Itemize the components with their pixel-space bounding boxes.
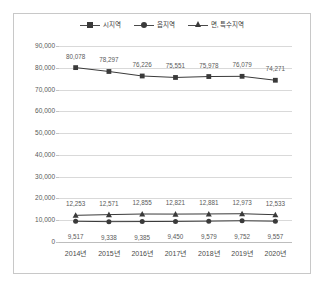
legend-item-si[interactable]: 시지역 — [80, 21, 121, 29]
series-layer — [59, 46, 292, 242]
y-axis-tick-label: 0 — [51, 239, 55, 246]
data-point-label: 76,079 — [232, 62, 251, 68]
y-axis-tick-label: 70,000 — [35, 86, 55, 93]
legend-label-eup: 읍지역 — [157, 22, 175, 29]
data-point-label: 12,855 — [133, 200, 152, 206]
data-point-marker — [273, 78, 278, 83]
y-axis-tick-label: 10,000 — [35, 217, 55, 224]
data-point-label: 12,571 — [99, 200, 118, 206]
data-point-label: 9,752 — [234, 234, 250, 240]
data-point-label: 80,078 — [66, 53, 85, 59]
data-point-marker — [240, 218, 245, 223]
x-axis-tick-label: 2020년 — [265, 250, 287, 257]
data-point-label: 9,557 — [267, 234, 283, 240]
data-point-marker — [73, 219, 78, 224]
data-point-label: 75,978 — [199, 62, 218, 68]
legend-marker-triangle-icon — [188, 21, 208, 29]
y-axis-tick-label: 40,000 — [35, 152, 55, 159]
x-axis-tick-label: 2018년 — [198, 250, 220, 257]
x-axis-tick-label: 2014년 — [65, 250, 87, 257]
legend-marker-square-icon — [80, 21, 100, 29]
data-point-label: 75,551 — [166, 63, 185, 69]
data-point-label: 12,533 — [266, 201, 285, 207]
data-point-label: 9,579 — [201, 234, 217, 240]
x-axis-tick-label: 2016년 — [131, 250, 153, 257]
data-point-label: 12,821 — [166, 200, 185, 206]
y-axis-tick-label: 30,000 — [35, 173, 55, 180]
x-axis-tick-label: 2015년 — [98, 250, 120, 257]
y-axis-tick-label: 90,000 — [35, 43, 55, 50]
y-axis-tick-mark — [56, 242, 59, 243]
x-axis-tick-label: 2019년 — [231, 250, 253, 257]
chart-frame: 시지역 읍지역 면, 특수지역 010,00020,00030,00040,00… — [13, 13, 311, 274]
legend-item-myeon[interactable]: 면, 특수지역 — [188, 21, 245, 29]
data-point-marker — [240, 74, 245, 79]
y-axis-tick-label: 50,000 — [35, 130, 55, 137]
data-point-label: 76,226 — [133, 62, 152, 68]
data-point-marker — [140, 219, 145, 224]
data-point-marker — [73, 65, 78, 70]
data-point-label: 74,271 — [266, 66, 285, 72]
y-axis-tick-label: 80,000 — [35, 65, 55, 72]
data-point-marker — [273, 219, 278, 224]
data-point-marker — [107, 69, 112, 74]
data-point-marker — [140, 74, 145, 79]
x-axis-line — [59, 242, 292, 243]
data-point-marker — [106, 219, 111, 224]
data-point-label: 9,517 — [68, 234, 84, 240]
legend-item-eup[interactable]: 읍지역 — [134, 21, 175, 29]
plot-area: 010,00020,00030,00040,00050,00060,00070,… — [59, 46, 292, 242]
data-point-label: 9,450 — [168, 234, 184, 240]
data-point-marker — [206, 219, 211, 224]
legend-marker-circle-icon — [134, 21, 154, 29]
legend-label-myeon: 면, 특수지역 — [211, 22, 245, 29]
data-point-marker — [173, 219, 178, 224]
data-point-label: 12,881 — [199, 200, 218, 206]
y-axis-tick-label: 60,000 — [35, 108, 55, 115]
data-point-marker — [206, 74, 211, 79]
y-axis-tick-label: 20,000 — [35, 195, 55, 202]
data-point-label: 9,385 — [134, 234, 150, 240]
legend-label-si: 시지역 — [103, 22, 121, 29]
data-point-label: 12,253 — [66, 201, 85, 207]
data-point-label: 12,973 — [232, 200, 251, 206]
x-axis-tick-label: 2017년 — [165, 250, 187, 257]
data-point-label: 9,338 — [101, 235, 117, 241]
chart-legend: 시지역 읍지역 면, 특수지역 — [14, 21, 310, 29]
data-point-marker — [173, 75, 178, 80]
data-point-label: 78,297 — [99, 57, 118, 63]
